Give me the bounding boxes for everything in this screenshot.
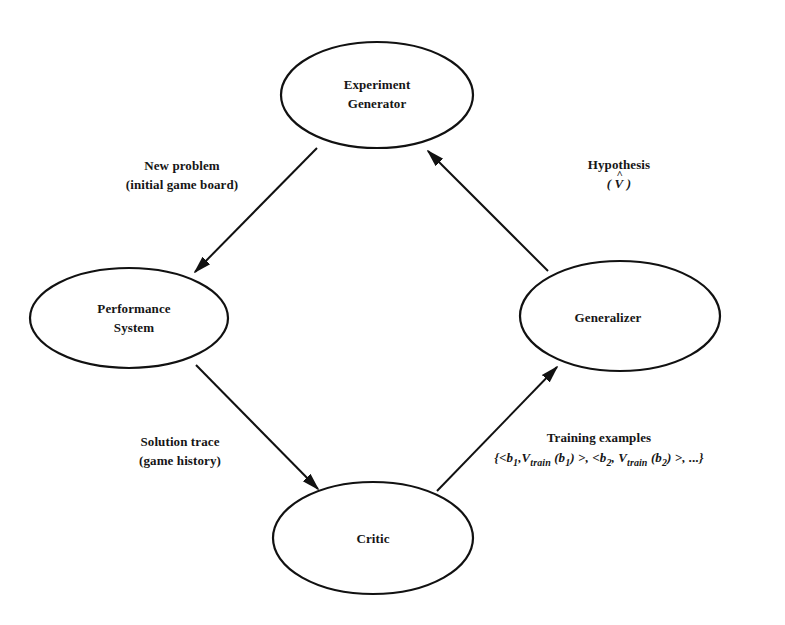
formula-open-paren: ( — [607, 176, 615, 191]
arrow-performance-system-to-critic — [196, 365, 318, 489]
solution-trace-line-2: (game history) — [139, 451, 221, 470]
generalizer-label: Generalizer — [575, 308, 642, 327]
training-examples-formula: {<b1,Vtrain (b1) >, <b2, Vtrain (b2) >, … — [494, 448, 703, 467]
v-hat-symbol: V — [615, 174, 624, 193]
critic-label: Critic — [356, 529, 389, 548]
formula-sep2: , — [612, 450, 619, 465]
formula-v: V — [522, 450, 531, 465]
formula-close-paren: ) — [623, 176, 631, 191]
solution-trace-line-1: Solution trace — [139, 432, 221, 451]
formula-mid: >, < — [575, 450, 600, 465]
formula-v2-sub: train — [627, 457, 648, 468]
formula-arg2-close: ) >, ...} — [667, 450, 704, 465]
solution-trace-label: Solution trace (game history) — [139, 432, 221, 470]
formula-arg2: (b — [651, 450, 662, 465]
formula-v2: V — [618, 450, 627, 465]
formula-arg1: (b — [554, 450, 565, 465]
experiment-generator-line-1: Experiment — [344, 75, 411, 94]
experiment-generator-label: Experiment Generator — [344, 75, 411, 113]
training-examples-label: Training examples {<b1,Vtrain (b1) >, <b… — [494, 428, 703, 467]
formula-open: {< — [494, 450, 506, 465]
new-problem-line-1: New problem — [126, 156, 239, 175]
performance-system-line-1: Performance — [97, 299, 170, 318]
new-problem-label: New problem (initial game board) — [126, 156, 239, 194]
performance-system-line-2: System — [97, 318, 170, 337]
experiment-generator-line-2: Generator — [344, 94, 411, 113]
formula-v-sub: train — [530, 457, 551, 468]
hypothesis-label: Hypothesis ( V ) — [588, 155, 650, 193]
performance-system-label: Performance System — [97, 299, 170, 337]
arrow-generalizer-to-experiment-generator — [428, 151, 548, 271]
generalizer-line-1: Generalizer — [575, 308, 642, 327]
critic-line-1: Critic — [356, 529, 389, 548]
new-problem-line-2: (initial game board) — [126, 175, 239, 194]
training-examples-line-1: Training examples — [494, 428, 703, 447]
hypothesis-formula: ( V ) — [588, 174, 650, 193]
